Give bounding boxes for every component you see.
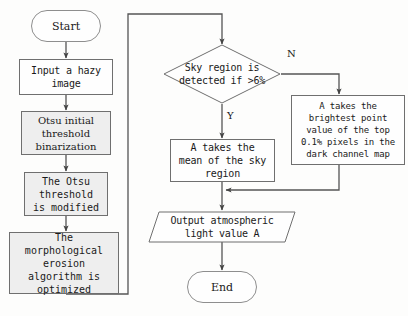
node-start-label: Start — [52, 20, 80, 33]
node-input-hazy-image-label: Input a hazy image — [31, 64, 101, 90]
node-otsu-threshold-modified[interactable]: The Otsu threshold is modified — [24, 172, 108, 216]
edge-label-yes: Y — [227, 110, 234, 121]
node-output-atmospheric-light[interactable]: Output atmospheric light value A — [148, 211, 296, 243]
edge-decision-no-to-brightest — [281, 74, 339, 94]
node-morphological-erosion-label: The morphological erosion algorithm is o… — [25, 231, 103, 296]
node-brightest-point-value[interactable]: A takes the brightest point value of the… — [291, 95, 405, 165]
node-end-label: End — [211, 281, 233, 294]
node-mean-of-sky-label: A takes the mean of the sky region — [179, 141, 266, 180]
node-mean-of-sky[interactable]: A takes the mean of the sky region — [170, 139, 275, 182]
node-input-hazy-image[interactable]: Input a hazy image — [19, 59, 113, 95]
node-otsu-initial-threshold-label: Otsu initial threshold binarization — [36, 114, 97, 153]
node-sky-region-decision-label: Sky region is detected if >6% — [163, 44, 281, 104]
flowchart-canvas: Start Input a hazy image Otsu initial th… — [0, 0, 408, 316]
node-start[interactable]: Start — [31, 10, 101, 42]
node-end[interactable]: End — [187, 271, 257, 303]
node-sky-region-decision[interactable]: Sky region is detected if >6% — [163, 44, 281, 104]
node-otsu-threshold-modified-label: The Otsu threshold is modified — [33, 175, 99, 214]
node-brightest-point-value-label: A takes the brightest point value of the… — [301, 100, 395, 160]
edge-label-no: N — [287, 48, 296, 59]
node-morphological-erosion[interactable]: The morphological erosion algorithm is o… — [9, 232, 119, 294]
node-otsu-initial-threshold[interactable]: Otsu initial threshold binarization — [21, 111, 111, 155]
node-output-atmospheric-light-label: Output atmospheric light value A — [148, 211, 296, 243]
